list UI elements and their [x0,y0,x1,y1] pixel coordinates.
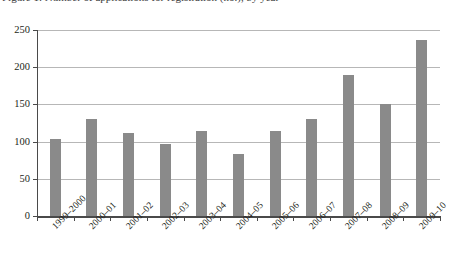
bar [233,154,244,216]
x-tick-mark [37,217,38,221]
y-tick-label: 150 [0,99,30,109]
x-tick-mark [440,217,441,221]
y-tick-label: 100 [0,137,30,147]
y-tick-label: 0 [0,211,30,221]
bar [123,133,134,216]
figure-caption-text: Figure 1: Number of applications for reg… [2,0,279,3]
bar [306,119,317,216]
gridline [37,67,440,68]
figure-caption-clipped: Figure 1: Number of applications for reg… [0,0,454,11]
x-tick-mark [330,217,331,221]
bar [50,139,61,216]
y-tick-mark [33,142,37,143]
bar [343,75,354,216]
bar [380,104,391,216]
x-tick-mark [147,217,148,221]
x-tick-mark [367,217,368,221]
y-tick-label: 250 [0,25,30,35]
plot-area [37,30,440,216]
y-axis-line [37,30,38,217]
x-tick-mark [257,217,258,221]
chart-figure: Figure 1: Number of applications for reg… [0,0,454,279]
x-tick-mark [220,217,221,221]
y-tick-mark [33,30,37,31]
bar [160,144,171,216]
x-tick-mark [403,217,404,221]
bar [416,40,427,216]
y-tick-label: 50 [0,174,30,184]
bar [270,131,281,216]
x-tick-mark [74,217,75,221]
y-tick-label: 200 [0,62,30,72]
x-tick-mark [184,217,185,221]
bar [86,119,97,216]
gridline [37,30,440,31]
y-tick-mark [33,104,37,105]
x-tick-mark [293,217,294,221]
y-tick-mark [33,67,37,68]
y-tick-mark [33,179,37,180]
x-tick-mark [110,217,111,221]
bar [196,131,207,216]
